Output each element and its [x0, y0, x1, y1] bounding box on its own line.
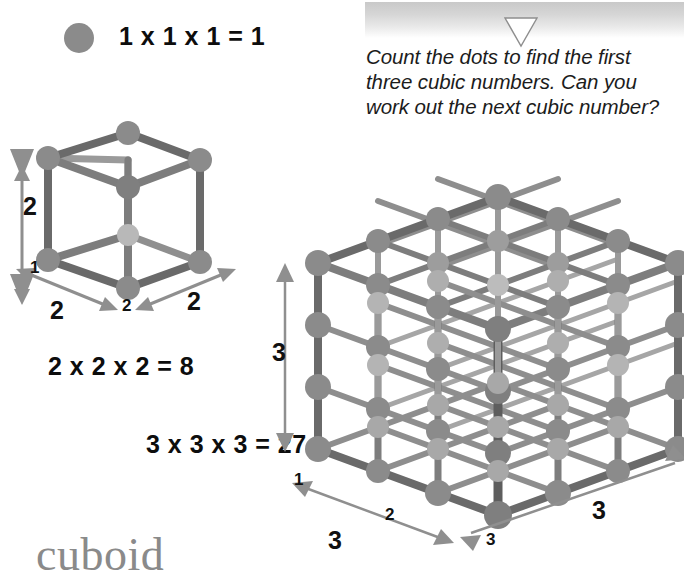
cube2-label-width: 2 [187, 287, 201, 316]
cube2-label-front-mid: 2 [122, 296, 131, 316]
footer-word-cuboid: cuboid [36, 528, 164, 574]
cube3-label-width: 3 [592, 496, 606, 525]
cube3-label-3: 3 [486, 530, 495, 550]
single-dot-icon [64, 23, 94, 53]
cube3-depth-arrow-left [303, 487, 443, 539]
cube3-label-2: 2 [385, 505, 394, 525]
cube3-label-height: 3 [272, 338, 286, 367]
triangle-down-icon [505, 18, 537, 46]
equation-2-cubed: 2 x 2 x 2 = 8 [48, 352, 194, 381]
cube2-label-height: 2 [23, 192, 37, 221]
equation-1-cubed: 1 x 1 x 1 = 1 [119, 22, 265, 51]
banner-triangle-svg [365, 2, 684, 38]
cube3-width-arrow-right [471, 463, 675, 533]
top-gradient-banner [365, 2, 684, 38]
cube2-label-depth: 2 [50, 296, 64, 325]
cube3-dimension-arrows [255, 255, 684, 555]
cube3-label-depth: 3 [328, 526, 342, 555]
instruction-text: Count the dots to find the first three c… [366, 44, 682, 119]
cube2-label-1: 1 [30, 258, 39, 278]
cube2-width-arrow-right [143, 272, 228, 307]
cube3-label-1: 1 [294, 470, 303, 490]
